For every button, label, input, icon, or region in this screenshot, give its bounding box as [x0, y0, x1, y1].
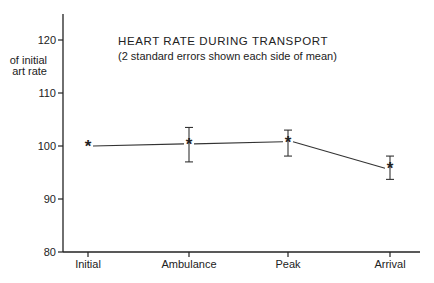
data-series: **** — [85, 127, 394, 179]
data-point-marker: * — [285, 133, 292, 152]
y-tick-label: 80 — [44, 246, 56, 258]
x-tick-label: Peak — [275, 258, 301, 270]
data-point-marker: * — [186, 135, 193, 154]
y-axis-label-line2: art rate — [12, 65, 47, 77]
y-tick-label: 110 — [38, 87, 56, 99]
x-axis-ticks: InitialAmbulancePeakArrival — [75, 252, 405, 270]
y-tick-label: 100 — [38, 140, 56, 152]
chart: 8090100110120 InitialAmbulancePeakArriva… — [0, 0, 434, 283]
chart-subtitle: (2 standard errors shown each side of me… — [118, 50, 337, 62]
chart-title: HEART RATE DURING TRANSPORT — [118, 35, 328, 47]
x-tick-label: Initial — [75, 258, 101, 270]
y-tick-label: 90 — [44, 193, 56, 205]
data-point-marker: * — [85, 137, 92, 156]
x-tick-label: Arrival — [374, 258, 405, 270]
data-point-marker: * — [387, 159, 394, 178]
x-tick-label: Ambulance — [161, 258, 216, 270]
y-tick-label: 120 — [38, 34, 56, 46]
